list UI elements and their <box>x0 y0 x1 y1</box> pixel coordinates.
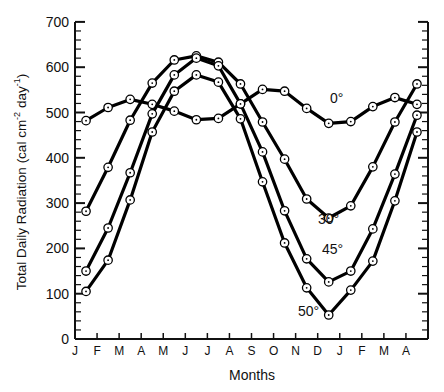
data-point-dot <box>328 122 330 124</box>
x-tick-label: M <box>114 344 124 358</box>
data-point-dot <box>262 88 264 90</box>
data-point-dot <box>284 90 286 92</box>
series-label: 0° <box>330 90 343 106</box>
x-tick-label: A <box>402 344 410 358</box>
data-point-dot <box>218 65 220 67</box>
data-point-dot <box>173 59 175 61</box>
y-tick-label: 0 <box>61 331 69 347</box>
x-tick-label: J <box>182 344 188 358</box>
y-tick-label: 100 <box>46 286 70 302</box>
data-point-dot <box>372 106 374 108</box>
data-point-dot <box>107 259 109 261</box>
data-point-dot <box>372 166 374 168</box>
data-point-dot <box>350 270 352 272</box>
data-point-dot <box>129 98 131 100</box>
data-point-dot <box>416 114 418 116</box>
y-axis-title: Total Daily Radiation (cal cm-2 day-1) <box>12 74 29 290</box>
y-tick-label: 500 <box>46 105 70 121</box>
data-point-dot <box>173 110 175 112</box>
data-point-dot <box>240 118 242 120</box>
x-tick-label: S <box>247 344 255 358</box>
data-point-dot <box>151 82 153 84</box>
x-tick-label: A <box>137 344 145 358</box>
data-point-dot <box>240 103 242 105</box>
x-tick-label: M <box>158 344 168 358</box>
x-tick-label: J <box>204 344 210 358</box>
radiation-chart: 0100200300400500600700JFMAMJJASONDJFMA 0… <box>0 0 444 392</box>
y-tick-label: 200 <box>46 240 70 256</box>
data-point-dot <box>107 227 109 229</box>
data-point-dot <box>85 210 87 212</box>
y-tick-label: 400 <box>46 150 70 166</box>
data-point-dot <box>195 57 197 59</box>
x-tick-label: A <box>225 344 233 358</box>
series-line <box>86 56 417 218</box>
data-point-dot <box>394 173 396 175</box>
x-tick-label: N <box>291 344 300 358</box>
x-tick-label: J <box>72 344 78 358</box>
data-point-dot <box>151 103 153 105</box>
data-point-dot <box>328 281 330 283</box>
data-point-dot <box>262 181 264 183</box>
series-lines <box>82 52 421 320</box>
data-point-dot <box>394 121 396 123</box>
data-point-dot <box>85 291 87 293</box>
data-point-dot <box>240 83 242 85</box>
data-point-dot <box>306 258 308 260</box>
data-point-dot <box>284 158 286 160</box>
x-tick-label: D <box>313 344 322 358</box>
data-point-dot <box>151 113 153 115</box>
axes: 0100200300400500600700JFMAMJJASONDJFMA <box>46 14 428 358</box>
x-tick-label: J <box>337 344 343 358</box>
data-point-dot <box>195 74 197 76</box>
data-point-dot <box>107 107 109 109</box>
data-point-dot <box>129 119 131 121</box>
data-point-dot <box>306 198 308 200</box>
series-label: 30° <box>318 211 339 227</box>
data-point-dot <box>350 289 352 291</box>
data-point-dot <box>262 121 264 123</box>
x-tick-label: M <box>379 344 389 358</box>
series-line <box>86 58 417 282</box>
data-point-dot <box>416 83 418 85</box>
x-tick-label: F <box>358 344 365 358</box>
data-point-dot <box>372 260 374 262</box>
x-tick-label: F <box>93 344 100 358</box>
series-label: 50° <box>298 303 319 319</box>
x-axis-title: Months <box>229 367 275 383</box>
data-point-dot <box>372 228 374 230</box>
data-point-dot <box>85 270 87 272</box>
data-point-dot <box>416 131 418 133</box>
data-point-dot <box>151 131 153 133</box>
series-line <box>86 89 417 123</box>
y-tick-label: 600 <box>46 59 70 75</box>
data-point-dot <box>129 199 131 201</box>
data-point-dot <box>262 151 264 153</box>
data-point-dot <box>306 287 308 289</box>
data-point-dot <box>416 103 418 105</box>
data-point-dot <box>284 242 286 244</box>
data-point-dot <box>173 90 175 92</box>
y-tick-label: 300 <box>46 195 70 211</box>
data-point-dot <box>350 205 352 207</box>
data-point-dot <box>85 120 87 122</box>
data-point-dot <box>394 97 396 99</box>
data-point-dot <box>218 81 220 83</box>
series-label: 45° <box>322 241 343 257</box>
data-point-dot <box>218 117 220 119</box>
y-tick-label: 700 <box>46 14 70 30</box>
data-point-dot <box>173 74 175 76</box>
data-point-dot <box>394 200 396 202</box>
x-tick-label: O <box>269 344 278 358</box>
data-point-dot <box>350 121 352 123</box>
data-point-dot <box>107 166 109 168</box>
data-point-dot <box>328 314 330 316</box>
data-point-dot <box>129 172 131 174</box>
data-point-dot <box>284 210 286 212</box>
data-point-dot <box>306 108 308 110</box>
data-point-dot <box>195 119 197 121</box>
